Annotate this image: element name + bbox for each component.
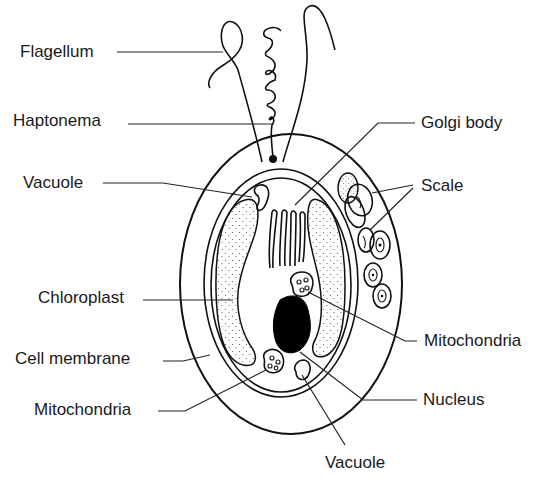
nucleus-shape xyxy=(273,296,310,353)
flagellum-right xyxy=(283,6,335,162)
flagellum-left xyxy=(209,22,262,162)
label-vacuole-top: Vacuole xyxy=(23,173,83,193)
label-flagellum: Flagellum xyxy=(20,42,94,62)
haptophyte-cell-diagram: Flagellum Haptonema Vacuole Chloroplast … xyxy=(0,0,557,487)
leader-vacuole-bottom xyxy=(302,375,345,445)
label-golgi-body: Golgi body xyxy=(421,113,502,133)
mitochondrion-lower-shape xyxy=(264,349,284,372)
scales-group xyxy=(338,173,391,308)
leader-scale-1 xyxy=(372,185,413,193)
label-nucleus: Nucleus xyxy=(423,390,484,410)
chloroplast-left xyxy=(216,199,258,365)
label-cell-membrane: Cell membrane xyxy=(15,349,130,369)
label-mitochondria-right: Mitochondria xyxy=(424,331,521,351)
label-mitochondria-left: Mitochondria xyxy=(34,400,131,420)
leader-cell-membrane xyxy=(163,355,210,361)
label-haptonema: Haptonema xyxy=(13,111,101,131)
haptonema-base xyxy=(269,155,277,163)
label-vacuole-bottom: Vacuole xyxy=(325,453,385,473)
label-chloroplast: Chloroplast xyxy=(38,288,124,308)
label-scale: Scale xyxy=(421,176,464,196)
vacuole-top-shape xyxy=(254,185,268,210)
leader-scale-2 xyxy=(370,188,413,230)
chloroplast-right xyxy=(308,199,345,356)
leader-vacuole-top xyxy=(103,183,252,197)
golgi-body-shape xyxy=(269,210,305,268)
